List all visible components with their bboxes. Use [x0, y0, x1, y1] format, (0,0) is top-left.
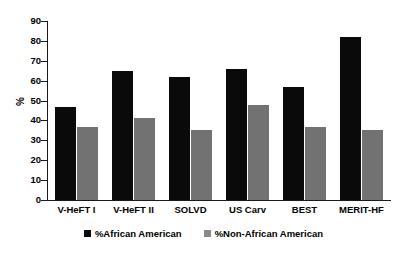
legend-label: %African American	[95, 228, 182, 239]
bar-group	[340, 21, 383, 200]
legend-item[interactable]: %Non-African American	[204, 228, 323, 239]
legend-item[interactable]: %African American	[84, 228, 182, 239]
x-axis-category-label: V-HeFT I	[48, 203, 105, 217]
y-axis-tick	[41, 160, 47, 161]
y-axis-tick-label: 50	[17, 96, 41, 105]
bar-group	[55, 21, 98, 200]
y-axis-labels: 9080706050403020100	[8, 0, 41, 256]
y-axis-tick-label: 30	[17, 135, 41, 144]
chart-legend: %African American%Non-African American	[0, 228, 407, 239]
bar	[169, 77, 190, 200]
x-axis-category-label: US Carv	[219, 203, 276, 217]
bar	[112, 71, 133, 200]
y-axis-tick-label: 40	[17, 115, 41, 124]
bar-group	[226, 21, 269, 200]
bar-group	[169, 21, 212, 200]
y-axis-tick	[41, 81, 47, 82]
y-axis-tick-label: 20	[17, 155, 41, 164]
y-axis-tick	[41, 101, 47, 102]
bars-layer	[48, 21, 390, 200]
y-axis-tick	[41, 41, 47, 42]
bar-group	[112, 21, 155, 200]
bar	[226, 69, 247, 200]
y-axis-tick-label: 70	[17, 56, 41, 65]
y-axis-tick-label: 0	[17, 195, 41, 204]
bar	[191, 130, 212, 200]
x-axis-category-label: BEST	[276, 203, 333, 217]
y-axis-tick	[41, 120, 47, 121]
x-axis-category-label: V-HeFT II	[105, 203, 162, 217]
bar	[283, 87, 304, 200]
bar-chart: % 9080706050403020100 V-HeFT IV-HeFT IIS…	[0, 0, 407, 256]
bar	[248, 105, 269, 200]
legend-label: %Non-African American	[215, 228, 323, 239]
y-axis-tick-label: 90	[17, 16, 41, 25]
bar	[55, 107, 76, 200]
y-axis-tick-label: 80	[17, 36, 41, 45]
bar	[340, 37, 361, 200]
y-axis-tick	[41, 180, 47, 181]
gray-square-icon	[204, 230, 211, 237]
black-square-icon	[84, 230, 91, 237]
y-axis-tick	[41, 140, 47, 141]
x-axis-category-label: SOLVD	[162, 203, 219, 217]
x-axis-category-label: MERIT-HF	[333, 203, 390, 217]
x-axis-labels: V-HeFT IV-HeFT IISOLVDUS CarvBESTMERIT-H…	[48, 203, 390, 219]
bar	[134, 118, 155, 200]
bar-group	[283, 21, 326, 200]
y-axis-tick	[41, 21, 47, 22]
bar	[362, 130, 383, 200]
y-axis-tick-label: 60	[17, 76, 41, 85]
bar	[77, 127, 98, 200]
y-axis-tick	[41, 61, 47, 62]
y-axis-tick-label: 10	[17, 175, 41, 184]
y-axis-tick	[41, 200, 47, 201]
x-axis-line	[47, 200, 391, 201]
bar	[305, 127, 326, 200]
